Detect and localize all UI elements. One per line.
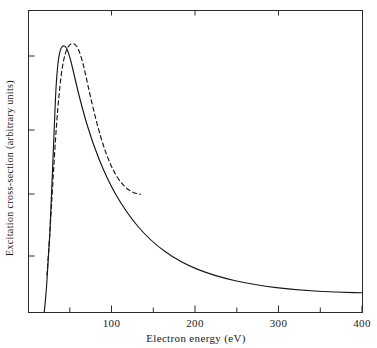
y-axis-title: Excitation cross-section (arbitrary unit… bbox=[4, 80, 16, 256]
series-solid-curve bbox=[44, 46, 362, 313]
x-axis-top-ticks bbox=[112, 11, 279, 16]
x-tick-label-100: 100 bbox=[103, 317, 121, 329]
x-tick-label-200: 200 bbox=[186, 317, 204, 329]
series-dashed-curve bbox=[47, 44, 141, 275]
x-tick-label-300: 300 bbox=[270, 317, 288, 329]
x-axis-title: Electron energy (eV) bbox=[146, 332, 246, 345]
y-axis-ticks bbox=[29, 56, 35, 256]
x-tick-label-400: 400 bbox=[353, 317, 371, 329]
plot-frame bbox=[29, 11, 363, 313]
plot-svg: 100 200 300 400 Electron energy (eV) Exc… bbox=[0, 0, 377, 348]
chart-figure: 100 200 300 400 Electron energy (eV) Exc… bbox=[0, 0, 377, 348]
